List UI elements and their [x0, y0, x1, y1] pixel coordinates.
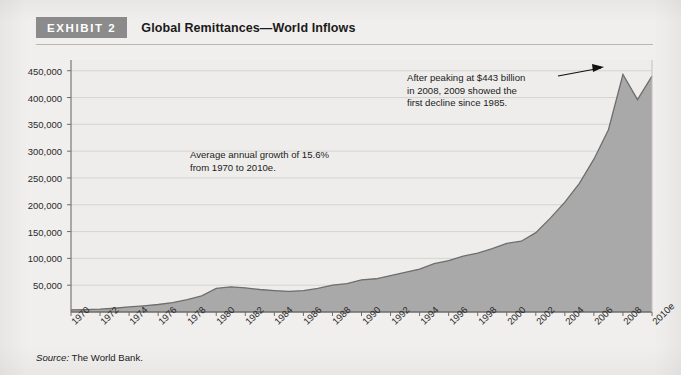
y-axis-tick-label: 50,000: [6, 280, 62, 291]
y-axis-tick-label: 450,000: [6, 65, 62, 76]
y-axis-tick-label: 250,000: [6, 172, 62, 183]
source-label: Source:: [36, 352, 69, 363]
source-text: The World Bank.: [69, 352, 143, 363]
y-axis-tick-label: 100,000: [6, 253, 62, 264]
source-note: Source: The World Bank.: [36, 352, 143, 363]
remittances-area-chart: 50,000100,000150,000200,000250,000300,00…: [0, 0, 681, 375]
y-axis-tick-label: 400,000: [6, 92, 62, 103]
y-axis-tick-label: 300,000: [6, 146, 62, 157]
exhibit-page: EXHIBIT 2 Global Remittances—World Inflo…: [0, 0, 681, 375]
y-axis-tick-label: 350,000: [6, 119, 62, 130]
y-axis-tick-label: 200,000: [6, 199, 62, 210]
growth-annotation: Average annual growth of 15.6% from 1970…: [190, 149, 329, 174]
y-axis-tick-label: 150,000: [6, 226, 62, 237]
peak-annotation: After peaking at $443 billion in 2008, 2…: [407, 72, 525, 110]
